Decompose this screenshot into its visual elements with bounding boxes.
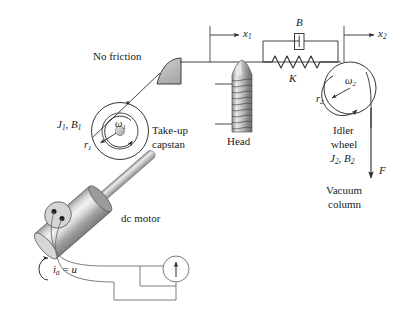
current-direction-arrow (39, 258, 48, 280)
label-x2: x2 (378, 27, 387, 41)
label-r1: r1 (84, 139, 92, 151)
label-vacuum: Vacuum (326, 184, 362, 196)
frictionless-guide-icon (157, 58, 181, 84)
B1-base: B (71, 118, 78, 130)
x2-dimension (344, 26, 374, 62)
current-source-icon (163, 256, 189, 282)
label-J1-B1: J1, B1 (57, 118, 81, 132)
idler-wheel-icon (322, 62, 376, 116)
label-spring-K: K (289, 72, 296, 84)
B2-base: B (344, 152, 351, 164)
label-J2-B2: J2, B2 (330, 152, 354, 166)
figure-canvas: No friction Take-up capstan dc motor Hea… (0, 0, 407, 324)
current-eq: = (60, 263, 72, 275)
label-omega1: ω1 (115, 118, 126, 130)
B2-sub: 2 (351, 158, 355, 166)
label-damper-B: B (296, 16, 303, 28)
label-idler: Idler (333, 124, 354, 136)
label-x1: x1 (243, 27, 252, 41)
label-force-F: F (379, 164, 386, 176)
label-dc-motor: dc motor (121, 212, 160, 224)
label-r2: r2 (316, 93, 324, 105)
label-current-input: ia = u (53, 263, 77, 277)
label-column: column (328, 198, 361, 210)
label-take-up: Take-up (152, 124, 188, 136)
label-wheel: wheel (331, 138, 357, 150)
head-icon (215, 60, 252, 132)
r2-sub: 2 (320, 98, 323, 105)
B1-sub: 1 (78, 124, 82, 132)
omega2-sub: 2 (352, 80, 355, 87)
r1-sub: 1 (88, 144, 91, 151)
x1-dimension (210, 26, 239, 62)
x1-sub: 1 (248, 33, 252, 41)
x2-sub: 2 (383, 33, 387, 41)
label-capstan: capstan (152, 138, 185, 150)
label-no-friction: No friction (93, 50, 142, 62)
dc-motor-icon (31, 149, 157, 262)
label-omega2: ω2 (345, 75, 356, 87)
label-head: Head (227, 135, 250, 147)
omega1-sub: 1 (122, 123, 125, 130)
current-value: u (71, 263, 77, 275)
